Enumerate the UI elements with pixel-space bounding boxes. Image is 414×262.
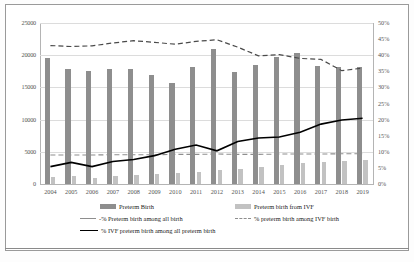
y-axis-right-tick-label: 25%: [378, 100, 389, 107]
legend-row-3: % IVF preterm birth among all preterm bi…: [40, 227, 380, 239]
x-axis-tick-label: 2018: [331, 188, 353, 195]
y-axis-right-tick-label: 10%: [378, 148, 389, 155]
chart-legend: Preterm Birth Preterm birth from IVF -% …: [40, 203, 380, 239]
line-black-icon: [80, 230, 98, 231]
legend-label: % IVF preterm birth among all preterm bi…: [101, 227, 215, 234]
x-axis-tick-label: 2012: [206, 188, 228, 195]
legend-row-1: Preterm Birth Preterm birth from IVF: [40, 203, 380, 215]
y-axis-right-tick-label: 0%: [378, 180, 386, 187]
x-axis-tick-label: 2007: [102, 188, 124, 195]
legend-item-pct-preterm-among-all-birth[interactable]: -% Preterm birth among all birth: [80, 215, 183, 222]
x-axis-tick-label: 2015: [268, 188, 290, 195]
y-axis-right-tick-label: 5%: [378, 164, 386, 171]
y-axis-right-tick-label: 20%: [378, 116, 389, 123]
y-axis-right-tick-label: 45%: [378, 35, 389, 42]
legend-item-preterm-birth[interactable]: Preterm Birth: [100, 203, 154, 210]
y-axis-left-tick-label: 10000: [22, 116, 36, 123]
line-pct-preterm-among-ivf-birth: [50, 40, 362, 71]
y-axis-right-tick-label: 30%: [378, 83, 389, 90]
y-axis-right-tick-label: 35%: [378, 67, 389, 74]
line-dashed-gray-icon: [235, 218, 251, 219]
y-axis-left-tick-label: 5000: [24, 148, 36, 155]
line-ivf-preterm-among-all-preterm: [50, 118, 362, 166]
x-axis-tick-label: 2010: [164, 188, 186, 195]
x-axis-tick-label: 2011: [185, 188, 207, 195]
x-axis-tick-label: 2016: [289, 188, 311, 195]
x-axis-tick-label: 2017: [310, 188, 332, 195]
y-axis-right-line: [373, 23, 374, 185]
y-axis-right-tick-label: 15%: [378, 132, 389, 139]
x-axis-line: [40, 184, 374, 185]
x-axis-tick-label: 2004: [39, 188, 61, 195]
legend-item-pct-preterm-among-ivf-birth[interactable]: % preterm birth among IVF birth: [235, 215, 339, 222]
x-axis-tick-label: 2014: [248, 188, 270, 195]
legend-item-ivf-preterm-among-all-preterm[interactable]: % IVF preterm birth among all preterm bi…: [80, 227, 215, 234]
legend-label: Preterm birth from IVF: [254, 203, 314, 210]
legend-label: % preterm birth among IVF birth: [254, 215, 339, 222]
chart-figure: 0500010000150002000025000 0%5%10%15%20%2…: [0, 0, 414, 262]
y-axis-right-tick-label: 50%: [378, 19, 389, 26]
x-axis-tick-label: 2005: [60, 188, 82, 195]
legend-label: -% Preterm birth among all birth: [99, 215, 183, 222]
y-axis-right-tick-label: 40%: [378, 51, 389, 58]
x-axis-tick-label: 2008: [123, 188, 145, 195]
y-axis-left-tick-label: 25000: [22, 19, 36, 26]
x-axis-tick-label: 2009: [143, 188, 165, 195]
x-axis-tick-label: 2006: [81, 188, 103, 195]
plot-area: [40, 23, 373, 184]
legend-row-2: -% Preterm birth among all birth % prete…: [40, 215, 380, 227]
legend-item-preterm-birth-from-ivf[interactable]: Preterm birth from IVF: [235, 203, 314, 210]
y-axis-left-tick-label: 20000: [22, 51, 36, 58]
bar-dark-icon: [100, 204, 116, 209]
legend-label: Preterm Birth: [119, 203, 154, 210]
x-axis-tick-label: 2019: [352, 188, 374, 195]
y-axis-left-tick-label: 15000: [22, 83, 36, 90]
line-series-group: [40, 23, 373, 184]
bar-light-icon: [235, 204, 251, 209]
footer-rule: [5, 248, 409, 249]
x-axis-tick-label: 2013: [227, 188, 249, 195]
y-axis-left-tick-label: 0: [33, 180, 36, 187]
line-pct-preterm-among-all-birth: [50, 154, 362, 155]
line-gray-icon: [80, 218, 96, 219]
